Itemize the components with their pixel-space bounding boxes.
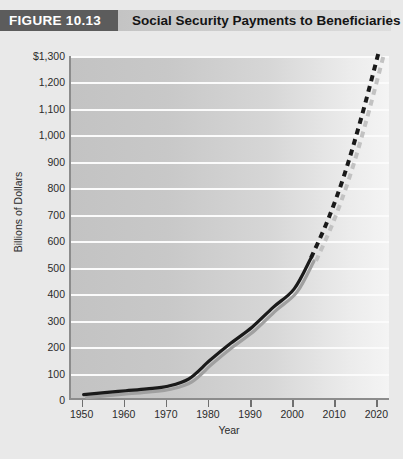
x-axis-tick-label: 1960 <box>100 408 148 420</box>
chart-area: Billions of Dollars 01002003004005006007… <box>0 36 403 459</box>
y-axis-tick-label: 1,100 <box>3 103 65 115</box>
x-axis-tick <box>166 400 168 407</box>
y-axis-tick-label: 600 <box>3 235 65 247</box>
y-axis-tick-label: 300 <box>3 315 65 327</box>
x-axis-tick-label: 1950 <box>58 408 106 420</box>
x-axis-tick <box>82 400 84 407</box>
y-axis-tick-label: 100 <box>3 368 65 380</box>
figure-header: FIGURE 10.13 Social Security Payments to… <box>0 10 391 31</box>
x-axis-tick-label: 1970 <box>142 408 190 420</box>
figure-title: Social Security Payments to Beneficiarie… <box>118 13 401 28</box>
plot-area <box>69 56 389 400</box>
x-axis-title: Year <box>69 424 389 436</box>
x-axis-tick-label: 2020 <box>352 408 400 420</box>
actual-line <box>84 258 311 395</box>
data-curve <box>71 56 391 400</box>
x-axis-tick-label: 1980 <box>184 408 232 420</box>
actual-line-shadow <box>87 261 314 398</box>
y-axis-tick-label: 700 <box>3 209 65 221</box>
x-axis-tick <box>124 400 126 407</box>
x-axis-tick-label: 2000 <box>268 408 316 420</box>
y-axis-tick-label: 1,200 <box>3 76 65 88</box>
x-axis-tick <box>208 400 210 407</box>
x-axis-tick <box>292 400 294 407</box>
projected-line-shadow <box>316 56 383 261</box>
figure-container: FIGURE 10.13 Social Security Payments to… <box>0 0 403 459</box>
y-axis-tick-label: 1,000 <box>3 129 65 141</box>
projected-line <box>311 53 378 258</box>
x-axis-tick <box>376 400 378 407</box>
y-axis-tick-label: 400 <box>3 288 65 300</box>
figure-number-badge: FIGURE 10.13 <box>0 10 118 31</box>
y-axis-tick-label: 900 <box>3 156 65 168</box>
y-axis-tick-label: 500 <box>3 262 65 274</box>
y-axis-tick-label: 200 <box>3 341 65 353</box>
y-axis-tick-label: $1,300 <box>3 50 65 62</box>
x-axis-tick-label: 2010 <box>310 408 358 420</box>
x-axis-tick-label: 1990 <box>226 408 274 420</box>
y-axis-tick-labels: 01002003004005006007008009001,0001,1001,… <box>0 56 65 400</box>
x-axis-tick <box>250 400 252 407</box>
y-axis-tick-label: 0 <box>3 394 65 406</box>
x-axis-tick <box>334 400 336 407</box>
y-axis-tick-label: 800 <box>3 182 65 194</box>
